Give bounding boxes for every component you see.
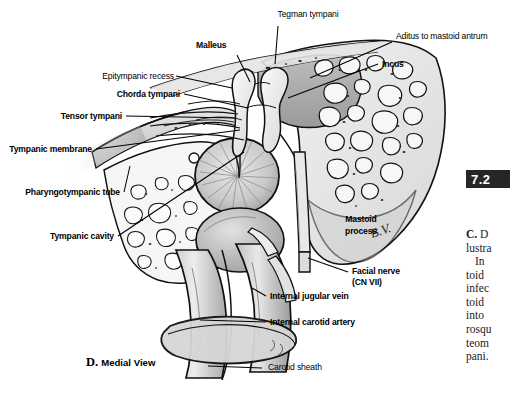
label-epitympanic-recess: Epitympanic recess [36, 71, 174, 81]
label-malleus: Malleus [196, 40, 226, 50]
text-line: In [466, 255, 500, 269]
text-line: teom [466, 337, 500, 351]
figure-caption: D. Medial View [86, 355, 155, 370]
label-mastoid-process-line1: Mastoid [330, 214, 392, 224]
body-text-column: C. D lustra In toid infec toid into rosq… [466, 228, 500, 393]
label-tegman-tympani: Tegman tympani [258, 9, 358, 19]
text-line: infec [466, 282, 500, 296]
label-carotid-sheath: Carotid sheath [268, 362, 322, 372]
text-line: toid [466, 269, 500, 283]
text-line: toid [466, 296, 500, 310]
text-heading: C. D [466, 228, 500, 242]
label-aditus-to-mastoid-antrum: Aditus to mastoid antrum [396, 31, 487, 41]
label-chorda-tympani: Chorda tympani [44, 89, 180, 99]
label-facial-nerve-line2: (CN VII) [352, 277, 382, 287]
label-incus: Incus [382, 59, 404, 69]
label-internal-jugular-vein: Internal jugular vein [270, 291, 349, 301]
label-tympanic-cavity: Tympanic cavity [0, 231, 114, 241]
text-heading-rest: D [477, 228, 488, 240]
text-heading-letter: C. [466, 228, 477, 240]
figure-caption-letter: D. [86, 355, 98, 370]
text-line: lustra [466, 242, 500, 256]
label-tympanic-membrane: Tympanic membrane [0, 144, 92, 154]
text-line: into [466, 309, 500, 323]
label-pharyngotympanic-tube: Pharyngotympanic tube [0, 187, 120, 197]
label-tensor-tympani: Tensor tympani [2, 111, 122, 121]
chapter-badge: 7.2 [466, 170, 510, 188]
label-internal-carotid-artery: Internal carotid artery [270, 317, 355, 327]
figure-caption-text: Medial View [101, 357, 155, 368]
text-line: pani. [466, 350, 500, 364]
label-mastoid-process-line2: process [330, 226, 392, 236]
label-facial-nerve-line1: Facial nerve [352, 266, 400, 276]
text-line: rosqu [466, 323, 500, 337]
